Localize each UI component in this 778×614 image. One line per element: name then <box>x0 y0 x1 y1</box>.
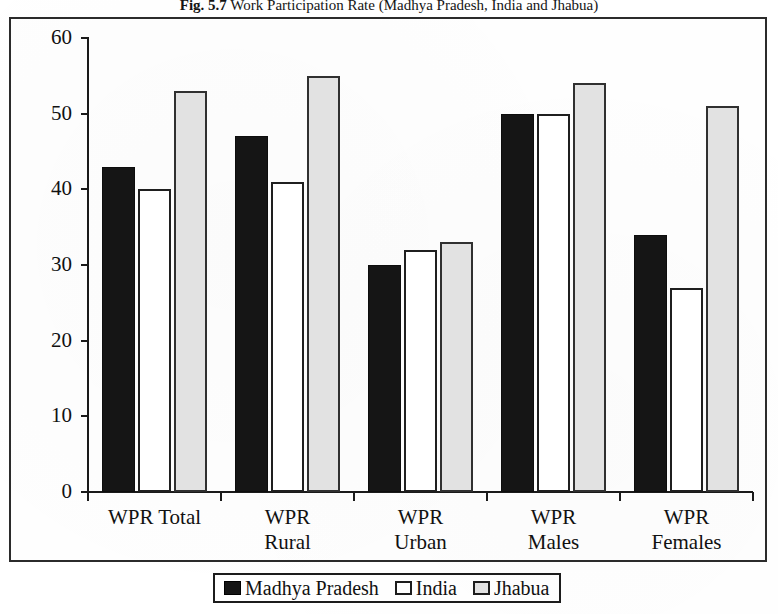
legend-swatch-icon-madhya-pradesh <box>224 581 241 595</box>
bar-wpr-urban-jhabua <box>440 242 473 492</box>
bar-wpr-urban-madhya-pradesh <box>368 265 401 492</box>
bar-wpr-females-india <box>670 288 703 492</box>
legend-label-india: India <box>416 578 457 598</box>
y-tick-label-30: 30 <box>12 254 72 275</box>
bar-wpr-males-jhabua <box>573 83 606 492</box>
legend-entry-madhya-pradesh: Madhya Pradesh <box>224 578 379 598</box>
x-category-label-wpr-rural: WPR Rural <box>221 505 354 555</box>
x-tick-mark-5 <box>752 492 754 501</box>
bar-wpr-rural-jhabua <box>307 76 340 492</box>
x-category-label-wpr-males: WPR Males <box>487 505 620 555</box>
bar-wpr-total-jhabua <box>174 91 207 492</box>
y-tick-mark-60 <box>81 37 88 39</box>
x-category-label-wpr-total: WPR Total <box>88 505 221 530</box>
y-tick-mark-30 <box>81 264 88 266</box>
bar-wpr-urban-india <box>404 250 437 492</box>
x-category-label-wpr-females: WPR Females <box>620 505 753 555</box>
bar-wpr-males-madhya-pradesh <box>501 114 534 492</box>
y-tick-label-50: 50 <box>12 103 72 124</box>
x-tick-mark-4 <box>619 492 621 501</box>
legend-entry-jhabua: Jhabua <box>473 578 550 598</box>
y-tick-mark-10 <box>81 415 88 417</box>
x-category-label-wpr-urban: WPR Urban <box>354 505 487 555</box>
x-tick-mark-3 <box>486 492 488 501</box>
x-tick-mark-2 <box>353 492 355 501</box>
x-tick-mark-1 <box>220 492 222 501</box>
bar-wpr-males-india <box>537 114 570 492</box>
y-tick-label-20: 20 <box>12 330 72 351</box>
legend-entry-india: India <box>395 578 457 598</box>
bar-wpr-females-madhya-pradesh <box>634 235 667 492</box>
chart-plot-area: 0102030405060WPR TotalWPR RuralWPR Urban… <box>0 0 778 614</box>
bar-wpr-total-india <box>138 189 171 492</box>
y-tick-mark-40 <box>81 188 88 190</box>
legend-swatch-icon-india <box>395 581 412 595</box>
legend-label-jhabua: Jhabua <box>494 578 550 598</box>
x-tick-mark-0 <box>87 492 89 501</box>
y-tick-mark-50 <box>81 113 88 115</box>
y-tick-label-60: 60 <box>12 27 72 48</box>
y-tick-label-10: 10 <box>12 405 72 426</box>
bar-wpr-females-jhabua <box>706 106 739 492</box>
y-tick-label-0: 0 <box>12 481 72 502</box>
legend-swatch-icon-jhabua <box>473 581 490 595</box>
bar-wpr-rural-madhya-pradesh <box>235 136 268 492</box>
y-tick-mark-20 <box>81 340 88 342</box>
bar-wpr-total-madhya-pradesh <box>102 167 135 492</box>
chart-legend: Madhya Pradesh India Jhabua <box>213 573 561 603</box>
bar-wpr-rural-india <box>271 182 304 492</box>
legend-label-madhya-pradesh: Madhya Pradesh <box>245 578 379 598</box>
y-tick-label-40: 40 <box>12 178 72 199</box>
